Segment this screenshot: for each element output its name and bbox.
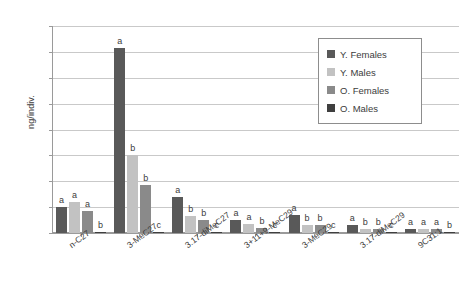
bar[interactable] xyxy=(69,202,80,233)
significance-letter: b xyxy=(130,144,135,153)
significance-letter: b xyxy=(143,174,148,183)
legend-item[interactable]: O. Males xyxy=(327,99,414,117)
significance-letter: b xyxy=(305,214,310,223)
bar[interactable] xyxy=(211,232,222,233)
bar-slot: a xyxy=(243,26,254,233)
legend-swatch-icon xyxy=(327,104,335,112)
bar-slot: a xyxy=(69,26,80,233)
bar-slot: a xyxy=(82,26,93,233)
significance-letter: a xyxy=(175,186,180,195)
legend-item-label: Y. Males xyxy=(340,67,376,78)
significance-letter: a xyxy=(408,218,413,227)
legend-item-label: O. Females xyxy=(340,85,389,96)
bar[interactable] xyxy=(127,155,138,233)
bar-slot: b xyxy=(256,26,267,233)
bar-slot: b xyxy=(444,26,455,233)
bar[interactable] xyxy=(56,207,67,233)
significance-letter: a xyxy=(233,209,238,218)
legend-item-label: O. Males xyxy=(340,103,378,114)
significance-letter: a xyxy=(117,37,122,46)
significance-letter: a xyxy=(85,200,90,209)
bar-slot: b xyxy=(198,26,209,233)
bar[interactable] xyxy=(114,48,125,233)
bar[interactable] xyxy=(444,232,455,233)
significance-letter: b xyxy=(188,205,193,214)
bar-group: aabc xyxy=(226,26,284,233)
significance-letter: a xyxy=(421,218,426,227)
chart-legend: Y. Females Y. Males O. Females O. Males xyxy=(318,38,422,124)
bar-slot: a xyxy=(230,26,241,233)
bar[interactable] xyxy=(302,225,313,233)
bar[interactable] xyxy=(347,225,358,233)
bar-chart: ng/indiv. 160140120100806040200 aaababbc… xyxy=(0,0,467,301)
bar-group: abbc xyxy=(168,26,226,233)
significance-letter: a xyxy=(59,196,64,205)
bar[interactable] xyxy=(185,216,196,233)
legend-swatch-icon xyxy=(327,86,335,94)
bar-slot: a xyxy=(56,26,67,233)
bar-group: abbc xyxy=(110,26,168,233)
bar[interactable] xyxy=(95,232,106,233)
x-axis-labels: n-C273-MeC273.17-diMeC273+11+9-MeC293-Me… xyxy=(52,234,459,301)
bar-slot: c xyxy=(153,26,164,233)
bar-slot: c xyxy=(269,26,280,233)
bar-slot: a xyxy=(114,26,125,233)
significance-letter: b xyxy=(447,221,452,230)
significance-letter: a xyxy=(350,214,355,223)
legend-item-label: Y. Females xyxy=(340,49,387,60)
bar-slot: a xyxy=(172,26,183,233)
bar[interactable] xyxy=(230,220,241,233)
significance-letter: b xyxy=(363,218,368,227)
bar-slot: b xyxy=(302,26,313,233)
legend-swatch-icon xyxy=(327,50,335,58)
bar[interactable] xyxy=(405,229,416,233)
significance-letter: b xyxy=(201,209,206,218)
bar-slot: b xyxy=(127,26,138,233)
significance-letter: a xyxy=(246,213,251,222)
bar-slot: a xyxy=(431,26,442,233)
y-axis-title: ng/indiv. xyxy=(26,82,42,142)
legend-swatch-icon xyxy=(327,68,335,76)
legend-item[interactable]: Y. Males xyxy=(327,63,414,81)
bar[interactable] xyxy=(243,224,254,233)
significance-letter: a xyxy=(72,191,77,200)
legend-item[interactable]: Y. Females xyxy=(327,45,414,63)
bar-group: aaab xyxy=(52,26,110,233)
bar[interactable] xyxy=(172,197,183,233)
legend-item[interactable]: O. Females xyxy=(327,81,414,99)
bar-slot: b xyxy=(185,26,196,233)
significance-letter: b xyxy=(318,214,323,223)
bar-slot: b xyxy=(95,26,106,233)
significance-letter: b xyxy=(98,221,103,230)
bar[interactable] xyxy=(153,232,164,233)
bar-slot: c xyxy=(211,26,222,233)
bar-slot: b xyxy=(140,26,151,233)
bar-slot: a xyxy=(289,26,300,233)
